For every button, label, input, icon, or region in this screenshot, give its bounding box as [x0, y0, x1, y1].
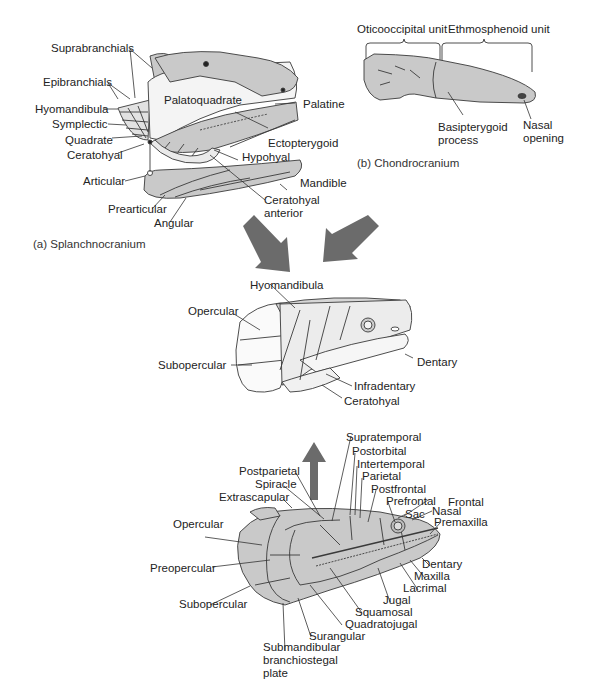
label-oticooccipital-unit: Oticooccipital unit: [357, 23, 447, 36]
label-hypohyal: Hypohyal: [242, 151, 290, 164]
label-mandible: Mandible: [300, 177, 347, 190]
label-ceratohyal-anterior-2: anterior: [264, 207, 303, 220]
label-ceratohyal-combined: Ceratohyal: [344, 395, 400, 408]
label-suprabranchials: Suprabranchials: [51, 42, 134, 55]
label-hyomandibula-a: Hyomandibula: [35, 103, 109, 116]
label-sac: Sac: [405, 508, 425, 521]
combined-skull-drawing: [236, 298, 412, 392]
label-premaxilla: Premaxilla: [434, 516, 488, 529]
label-basipterygoid-2: process: [438, 134, 478, 147]
label-submandibular-1: Submandibular: [263, 641, 340, 654]
label-symplectic: Symplectic: [52, 118, 108, 131]
label-quadrate: Quadrate: [65, 134, 113, 147]
label-extrascapular: Extrascapular: [219, 491, 289, 504]
label-palatoquadrate: Palatoquadrate: [164, 94, 242, 107]
label-subopercular-combined: Subopercular: [158, 359, 226, 372]
label-nasal-opening-2: opening: [523, 132, 564, 145]
caption-chondrocranium: (b) Chondrocranium: [357, 157, 459, 169]
label-prearticular: Prearticular: [108, 203, 167, 216]
label-dentary-combined: Dentary: [417, 356, 457, 369]
label-submandibular-2: branchiostegal: [263, 654, 338, 667]
label-ceratohyal-anterior-1: Ceratohyal: [264, 194, 320, 207]
label-infradentary: Infradentary: [354, 380, 415, 393]
label-postorbital: Postorbital: [352, 445, 406, 458]
caption-splanchnocranium: (a) Splanchnocranium: [33, 238, 146, 250]
label-opercular-derm: Opercular: [173, 518, 224, 531]
chondrocranium-drawing: [364, 39, 536, 103]
label-submandibular-3: plate: [263, 667, 288, 680]
label-ethmosphenoid-unit: Ethmosphenoid unit: [448, 23, 550, 36]
label-basipterygoid-1: Basipterygoid: [438, 121, 508, 134]
label-supratemporal: Supratemporal: [346, 431, 421, 444]
label-opercular-combined: Opercular: [188, 305, 239, 318]
splanchnocranium-drawing: [118, 52, 302, 199]
label-palatine: Palatine: [303, 98, 345, 111]
label-postparietal: Postparietal: [239, 465, 300, 478]
label-ectopterygoid: Ectopterygoid: [268, 137, 338, 150]
label-preopercular: Preopercular: [150, 562, 216, 575]
label-parietal: Parietal: [362, 470, 401, 483]
label-spiracle: Spiracle: [255, 478, 297, 491]
label-angular: Angular: [154, 217, 194, 230]
label-nasal-opening-1: Nasal: [523, 119, 552, 132]
label-prefrontal: Prefrontal: [386, 495, 436, 508]
label-hyomandibula-combined: Hyomandibula: [250, 279, 324, 292]
label-ceratohyal-a: Ceratohyal: [67, 149, 123, 162]
label-subopercular-derm: Subopercular: [179, 598, 247, 611]
label-articular: Articular: [83, 175, 125, 188]
label-epibranchials: Epibranchials: [43, 76, 112, 89]
